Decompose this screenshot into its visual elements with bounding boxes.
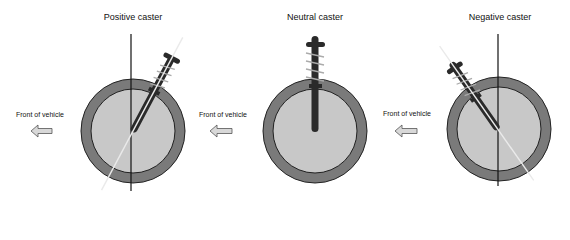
wheel <box>447 77 551 181</box>
front-arrow-icon <box>31 125 52 137</box>
negative-caster-diagram <box>395 34 551 186</box>
front-arrow-icon <box>210 125 232 137</box>
neutral-caster-diagram <box>210 36 367 183</box>
front-arrow-icon <box>395 125 417 137</box>
positive-caster-diagram <box>31 33 191 194</box>
